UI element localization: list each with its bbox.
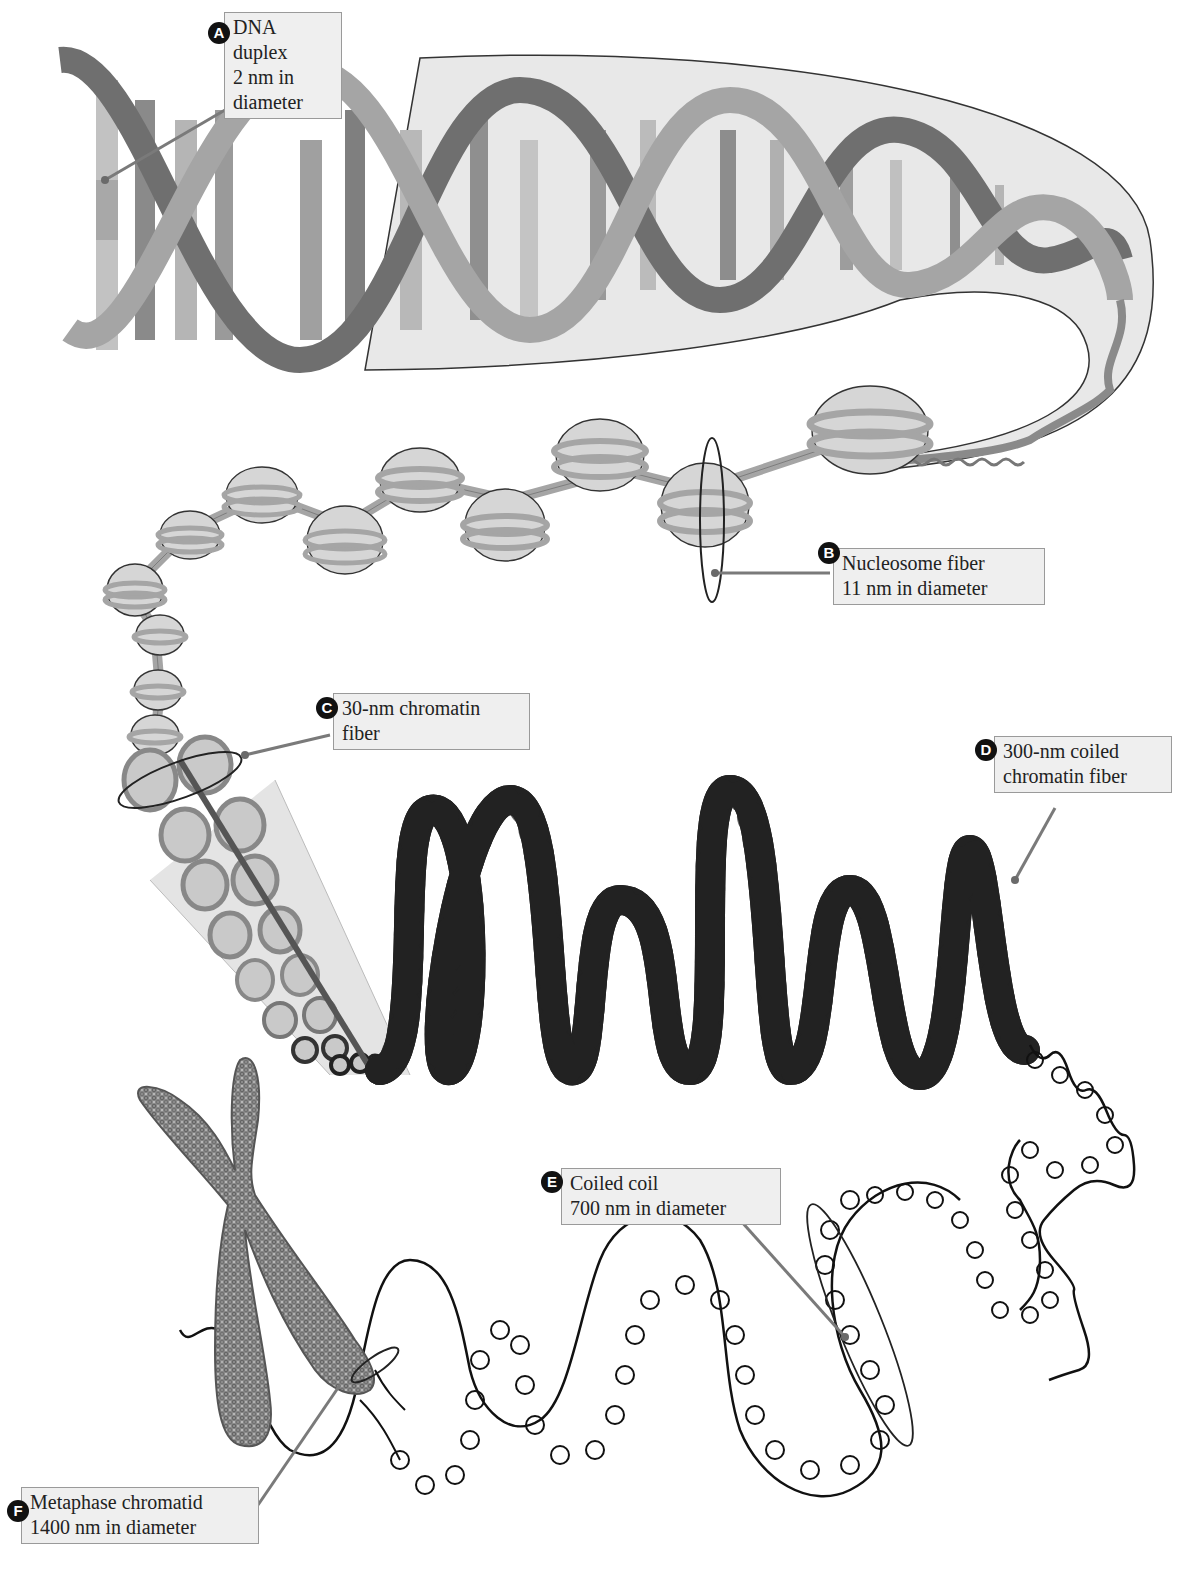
label-metaphase-chromatid: Metaphase chromatid 1400 nm in diameter: [21, 1487, 259, 1544]
label-30nm-chromatin-fiber: 30-nm chromatin fiber: [333, 693, 530, 750]
label-dna-duplex: DNA duplex 2 nm in diameter: [224, 12, 342, 119]
leader-line-e: [740, 1220, 845, 1337]
leader-line-c: [245, 735, 330, 755]
label-nucleosome-fiber: Nucleosome fiber 11 nm in diameter: [833, 548, 1045, 605]
coiled-coil-illustration: [180, 1045, 1134, 1496]
metaphase-chromosome-illustration: [138, 1058, 405, 1505]
badge-e-icon: E: [541, 1171, 563, 1193]
leader-line-d: [1015, 808, 1055, 880]
chromatin-300nm-fiber-illustration: [380, 790, 1055, 1075]
label-300nm-coiled-fiber: 300-nm coiled chromatin fiber: [994, 736, 1172, 793]
badge-f-icon: F: [7, 1500, 29, 1522]
badge-b-icon: B: [818, 542, 840, 564]
chromatin-30nm-fiber-illustration: [113, 735, 410, 1075]
badge-a-icon: A: [208, 22, 230, 44]
label-coiled-coil: Coiled coil 700 nm in diameter: [561, 1168, 781, 1225]
badge-d-icon: D: [975, 739, 997, 761]
badge-c-icon: C: [316, 697, 338, 719]
